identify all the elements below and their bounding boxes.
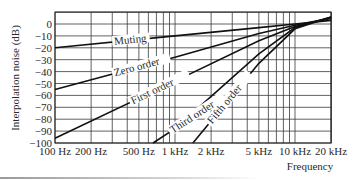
x-tick-label: 5 kHz <box>246 145 273 157</box>
interpolation-noise-chart: 0−10−20−30−40−50−60−70−80−90−100 100 Hz2… <box>0 0 358 180</box>
series-label-first-order: First order <box>127 68 191 107</box>
y-tick-label: −20 <box>35 42 53 54</box>
x-tick-label: 1 kHz <box>162 145 189 157</box>
series-label-muting: Muting <box>112 31 151 47</box>
x-tick-label: 2 kHz <box>198 145 225 157</box>
x-tick-label: 10 kHz <box>279 145 311 157</box>
y-tick-label: 0 <box>47 18 53 30</box>
page-divider <box>0 177 260 179</box>
y-tick-label: −40 <box>35 66 53 78</box>
x-axis-label: Frequency <box>287 160 334 172</box>
svg-text:First order: First order <box>129 75 176 106</box>
x-tick-label: 500 Hz <box>123 145 155 157</box>
y-axis-ticks: 0−10−20−30−40−50−60−70−80−90−100 <box>29 18 52 149</box>
y-tick-label: −90 <box>35 125 53 137</box>
y-tick-label: −80 <box>35 113 53 125</box>
y-tick-label: −10 <box>35 30 53 42</box>
x-tick-label: 200 Hz <box>75 145 107 157</box>
y-tick-label: −70 <box>35 101 53 113</box>
x-axis-ticks: 100 Hz200 Hz500 Hz1 kHz2 kHz5 kHz10 kHz2… <box>39 145 347 157</box>
y-axis-label: Interpolation noise (dB) <box>9 25 22 131</box>
x-tick-label: 100 Hz <box>39 145 71 157</box>
y-tick-label: −30 <box>35 54 53 66</box>
y-tick-label: −50 <box>35 78 53 90</box>
y-tick-label: −60 <box>35 89 53 101</box>
x-tick-label: 20 kHz <box>315 145 347 157</box>
svg-text:Zero order: Zero order <box>112 55 161 79</box>
svg-text:Muting: Muting <box>114 32 148 47</box>
series-label-zero-order: Zero order <box>110 52 171 79</box>
